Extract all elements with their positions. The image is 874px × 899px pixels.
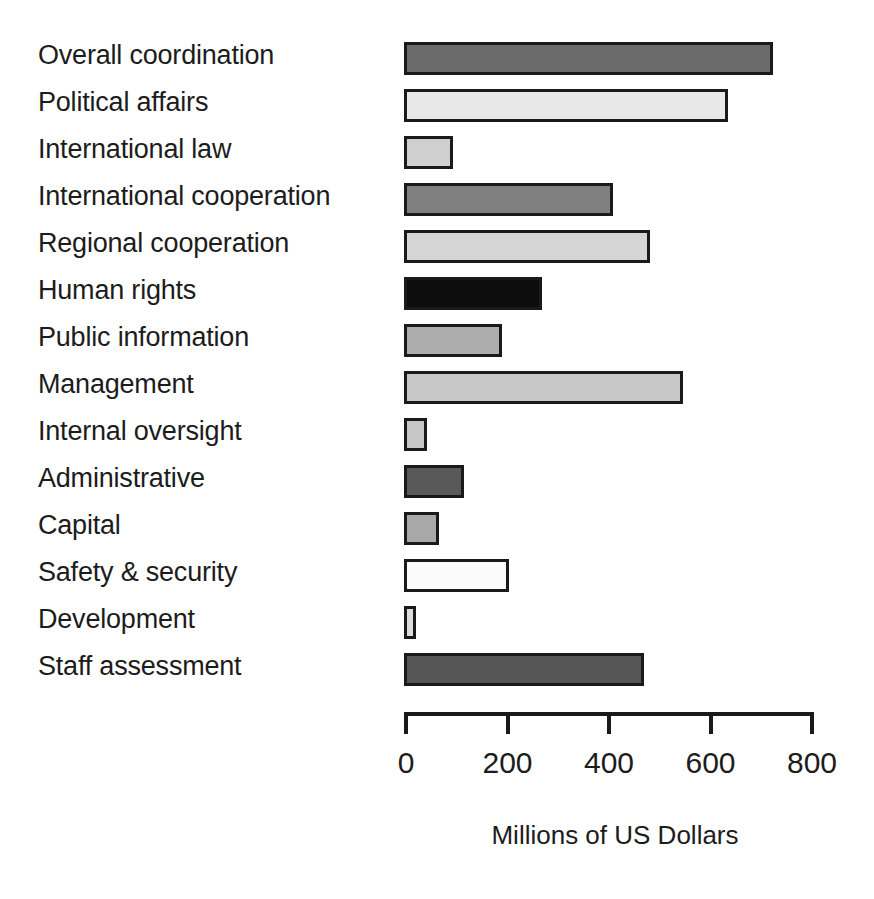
x-tick-label: 800 [787,748,837,778]
category-label: Capital [38,512,121,539]
bar [404,418,427,451]
bar [404,465,464,498]
x-axis-tick [607,712,611,734]
category-label: International law [38,136,231,163]
x-axis-tick [506,712,510,734]
x-axis-tick [709,712,713,734]
x-tick-label: 600 [685,748,735,778]
x-tick-label: 200 [482,748,532,778]
bar-chart: Overall coordination Political affairs I… [0,0,874,899]
x-tick-label: 400 [584,748,634,778]
category-label: Staff assessment [38,653,241,680]
category-label: Regional cooperation [38,230,289,257]
bar [404,230,650,263]
bar [404,277,542,310]
category-label: Overall coordination [38,42,274,69]
bar [404,371,683,404]
bar [404,559,509,592]
category-label: Safety & security [38,559,237,586]
bar [404,42,773,75]
bar [404,606,416,639]
x-axis-tick [810,712,814,734]
bar [404,89,728,122]
category-label: Human rights [38,277,196,304]
category-label: Political affairs [38,89,208,116]
category-label: Public information [38,324,249,351]
x-tick-label: 0 [398,748,415,778]
category-label: Internal oversight [38,418,242,445]
category-label: International cooperation [38,183,330,210]
x-axis-title: Millions of US Dollars [491,822,738,848]
bar [404,183,613,216]
x-axis-tick [404,712,408,734]
category-label: Management [38,371,194,398]
bar [404,512,439,545]
bar [404,324,502,357]
bar [404,136,453,169]
category-label: Development [38,606,195,633]
category-label: Administrative [38,465,205,492]
bar [404,653,644,686]
